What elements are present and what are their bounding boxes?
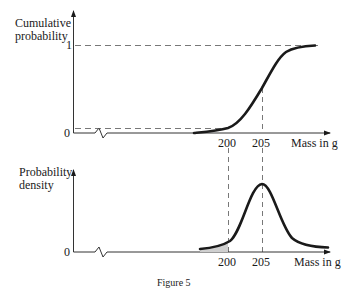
top-xtick-200: 200	[218, 137, 236, 150]
top-xlabel: Mass in g	[291, 137, 338, 150]
bottom-ytick-0: 0	[64, 246, 70, 259]
bottom-xtick-200: 200	[218, 256, 236, 269]
top-ylabel-line2: probability	[15, 30, 68, 43]
top-xtick-205: 205	[252, 137, 270, 150]
cumulative-curve	[194, 46, 315, 134]
top-ytick-1: 1	[66, 39, 72, 52]
bottom-ylabel-line2: density	[19, 179, 54, 192]
bottom-xlabel: Mass in g	[294, 256, 341, 269]
bottom-xtick-205: 205	[252, 256, 270, 269]
density-curve	[200, 184, 328, 249]
cumulative-chart	[74, 11, 331, 138]
top-ytick-0: 0	[64, 127, 70, 140]
density-chart	[74, 170, 331, 257]
figure-caption: Figure 5	[157, 276, 191, 289]
